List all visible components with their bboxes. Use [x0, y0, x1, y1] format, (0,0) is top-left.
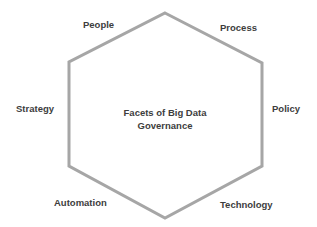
diagram-title: Facets of Big Data Governance — [115, 106, 215, 132]
diagram-title-line2: Governance — [115, 119, 215, 132]
diagram-title-line1: Facets of Big Data — [115, 106, 215, 119]
facet-people: People — [83, 19, 114, 30]
facet-policy: Policy — [272, 103, 300, 114]
facet-process: Process — [220, 22, 257, 33]
facet-automation: Automation — [54, 197, 107, 208]
facet-technology: Technology — [220, 199, 273, 210]
facet-strategy: Strategy — [16, 103, 54, 114]
